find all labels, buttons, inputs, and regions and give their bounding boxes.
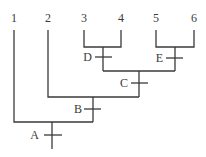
branch-3-4 bbox=[84, 30, 121, 47]
node-label-d: D bbox=[83, 50, 92, 64]
branch-5-6 bbox=[156, 30, 194, 47]
node-label-c: C bbox=[120, 76, 128, 90]
leaf-label-3: 3 bbox=[81, 11, 87, 25]
leaf-label-2: 2 bbox=[45, 11, 51, 25]
cladogram: 1 2 3 4 5 6 D E C B A bbox=[0, 0, 206, 157]
leaf-label-6: 6 bbox=[191, 11, 197, 25]
leaf-label-1: 1 bbox=[11, 11, 17, 25]
node-label-b: B bbox=[74, 102, 82, 116]
node-label-e: E bbox=[156, 51, 163, 65]
node-label-a: A bbox=[30, 128, 39, 142]
leaf-label-5: 5 bbox=[153, 11, 159, 25]
leaf-label-4: 4 bbox=[118, 11, 124, 25]
